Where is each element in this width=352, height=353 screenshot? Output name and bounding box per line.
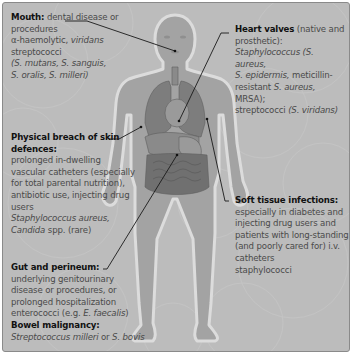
label-skin-breach: Physical breach of skin defences: prolon…	[11, 132, 143, 236]
mouth-heading: Mouth:	[11, 12, 44, 22]
heart	[165, 99, 189, 127]
diagram-frame: Mouth: dental disease or procedures α-ha…	[2, 2, 350, 352]
label-soft-tissue: Soft tissue infections: especially in di…	[235, 195, 349, 276]
gut-heading: Gut and perineum:	[11, 262, 145, 274]
skin-heading: Physical breach of skin	[11, 132, 143, 144]
label-gut-perineum: Gut and perineum: underlying genitourina…	[11, 262, 145, 343]
trachea	[172, 67, 178, 85]
label-heart-valves: Heart valves (native and prosthetic): St…	[235, 24, 347, 117]
heart-heading: Heart valves	[235, 24, 294, 34]
bowel-malignancy-heading: Bowel malignancy:	[11, 320, 145, 332]
intestines	[145, 154, 209, 195]
label-mouth: Mouth: dental disease or procedures α-ha…	[11, 12, 141, 82]
soft-tissue-heading: Soft tissue infections:	[235, 195, 349, 207]
